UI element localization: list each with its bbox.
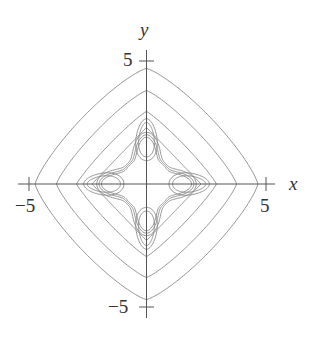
y-tick-label-neg5: −5 [108,297,128,316]
x-tick-label-neg5: −5 [15,196,35,215]
y-axis-label: y [140,20,148,39]
contour-plot [0,0,318,346]
x-axis-label: x [289,174,297,193]
y-tick-label-pos5: 5 [123,50,133,69]
x-tick-label-pos5: 5 [260,196,270,215]
